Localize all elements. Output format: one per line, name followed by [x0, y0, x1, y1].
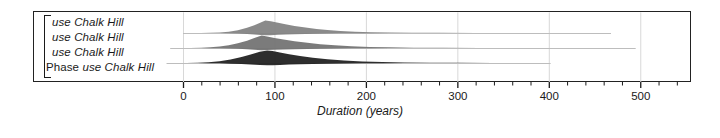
row-label-0[interactable]: use Chalk Hill	[52, 16, 124, 29]
row-label-3-phase[interactable]: Phase use Chalk Hill	[46, 61, 154, 74]
row-label-2[interactable]: use Chalk Hill	[52, 46, 124, 59]
x-axis-tick-label: 0	[180, 90, 186, 102]
x-axis-tick-label: 500	[631, 90, 650, 102]
row-label-3-text: use Chalk Hill	[82, 61, 154, 73]
x-axis-tick-label: 100	[265, 90, 284, 102]
row-label-1-text: use Chalk Hill	[52, 31, 124, 43]
x-axis-tick-label: 400	[540, 90, 559, 102]
x-axis-title: Duration (years)	[0, 104, 720, 118]
row-label-0-text: use Chalk Hill	[52, 16, 124, 28]
row-label-2-text: use Chalk Hill	[52, 46, 124, 58]
probability-distribution-plot: use Chalk Hill use Chalk Hill use Chalk …	[0, 0, 720, 138]
x-axis-tick-label: 200	[357, 90, 376, 102]
row-label-3-prefix: Phase	[46, 61, 82, 73]
row-label-1[interactable]: use Chalk Hill	[52, 31, 124, 44]
x-axis-tick-label: 300	[448, 90, 467, 102]
